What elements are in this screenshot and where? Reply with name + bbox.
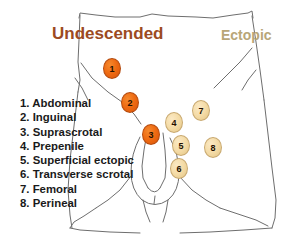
position-marker-3: 3 <box>142 124 160 145</box>
position-marker-4: 4 <box>165 112 183 133</box>
heading-undescended: Undescended <box>52 24 163 44</box>
right-thigh-outer-path <box>264 100 276 228</box>
right-upper-crease-path <box>242 70 256 90</box>
legend-item: 6. Transverse scrotal <box>20 167 180 181</box>
right-leg-bottom-path <box>180 228 272 233</box>
position-marker-2: 2 <box>121 92 139 113</box>
legend-item: 8. Perineal <box>20 196 180 210</box>
diagram-canvas: Undescended Ectopic 1. Abdominal 2. Ingu… <box>0 0 301 240</box>
right-leg-inner-path <box>220 208 268 226</box>
legend-item: 1. Abdominal <box>20 96 180 110</box>
legend-list: 1. Abdominal 2. Inguinal 3. Suprascrotal… <box>20 96 180 210</box>
left-leg-bottom-path <box>70 228 140 233</box>
waistline-path <box>79 11 253 18</box>
position-marker-7: 7 <box>192 100 210 121</box>
legend-item: 5. Superficial ectopic <box>20 153 180 167</box>
groin-right-fold-path <box>179 176 220 208</box>
heading-ectopic: Ectopic <box>221 27 272 43</box>
position-marker-6: 6 <box>170 158 188 179</box>
legend-item: 2. Inguinal <box>20 110 180 124</box>
legend-item: 7. Femoral <box>20 182 180 196</box>
position-marker-1: 1 <box>103 58 121 79</box>
position-marker-5: 5 <box>172 135 190 156</box>
left-leg-inner-path <box>70 208 96 228</box>
position-marker-8: 8 <box>204 137 222 158</box>
